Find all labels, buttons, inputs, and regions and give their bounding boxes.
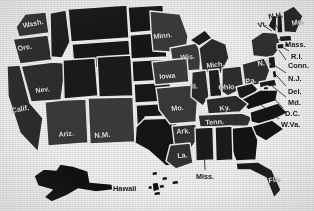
leader-de [276,75,286,86]
state-az [45,99,88,146]
state-or [13,35,52,64]
state-nh [277,14,283,33]
state-in [208,69,222,97]
map-graphic [0,0,314,211]
state-ia [152,58,189,85]
state-ut [63,58,98,99]
state-id [50,10,70,58]
state-ri [285,43,289,47]
state-mt [68,5,129,42]
hawaii-isl-big [152,182,160,192]
state-co [97,55,133,97]
state-nm [88,97,135,144]
state-al [215,126,233,161]
state-ak [34,164,113,202]
state-tn [198,113,252,127]
state-me [283,6,303,33]
state-nj [268,56,276,69]
hawaii-isl-1 [152,171,158,176]
state-wa [16,12,49,37]
leader-ct [279,50,286,60]
state-de [272,70,277,78]
us-map: Wash.Ore.Nev.Calif.Ariz.N.M.Minn.Wis.Iow… [0,0,314,211]
state-la [166,143,193,169]
state-ct [277,43,284,49]
state-ma [279,35,292,42]
state-ga [230,126,258,161]
